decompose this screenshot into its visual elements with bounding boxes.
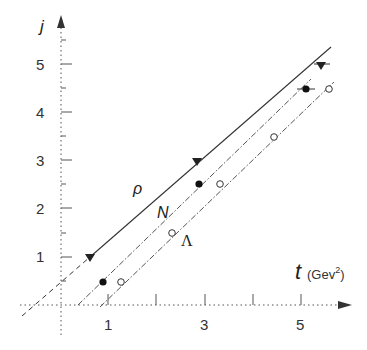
x-tick-label-3: 3	[200, 316, 208, 333]
rho-extrapolation-line	[22, 257, 90, 316]
y-ticks	[61, 40, 72, 281]
x-tick-label-1: 1	[104, 316, 112, 333]
lambda-label: Λ	[181, 232, 193, 249]
x-axis-unit: (Gev2)	[307, 265, 345, 282]
rho-trajectory-line	[90, 47, 331, 257]
lambda-point-open-circle-icon	[169, 230, 176, 237]
y-axis-title: j	[38, 17, 45, 36]
y-tick-label-3: 3	[36, 152, 44, 169]
rho-point-triangle-icon	[316, 62, 326, 70]
rho-label: ρ	[132, 180, 142, 197]
x-ticks	[108, 294, 301, 305]
series-rho	[22, 47, 331, 316]
rho-point-triangle-icon	[192, 158, 202, 166]
x-axis-arrow-icon	[338, 301, 352, 309]
n-point-filled-circle-icon	[99, 278, 106, 285]
y-tick-label-5: 5	[36, 56, 44, 73]
y-tick-label-1: 1	[36, 248, 44, 265]
x-tick-label-5: 5	[296, 316, 304, 333]
n-point-filled-circle-icon	[302, 85, 309, 92]
x-axis	[20, 301, 352, 309]
n-point-filled-circle-icon	[195, 180, 202, 187]
y-axis	[57, 15, 65, 335]
y-axis-arrow-icon	[57, 15, 65, 28]
x-axis-title: t	[295, 259, 302, 284]
regge-trajectory-chart: 1 2 3 4 5 1 3 5 j t (Gev2) ρ N Λ	[0, 0, 367, 350]
lambda-point-open-circle-icon	[217, 181, 224, 188]
lambda-point-open-circle-icon	[118, 279, 125, 286]
series-n	[78, 79, 315, 305]
n-trajectory-line	[78, 79, 311, 305]
n-label: N	[157, 204, 169, 221]
rho-point-triangle-icon	[85, 254, 95, 262]
lambda-point-open-circle-icon	[271, 134, 278, 141]
y-tick-label-2: 2	[36, 200, 44, 217]
y-tick-label-4: 4	[36, 104, 44, 121]
lambda-point-open-circle-icon	[326, 86, 333, 93]
